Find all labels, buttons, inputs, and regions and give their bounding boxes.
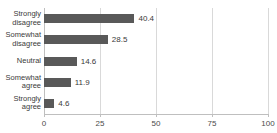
x-tick-mark bbox=[44, 114, 45, 117]
bar-value-label: 28.5 bbox=[112, 35, 128, 44]
gridline bbox=[100, 8, 101, 114]
bar-chart: Strongly disagreeSomewhat disagreeNeutra… bbox=[0, 0, 277, 133]
chart-title-cropped bbox=[26, 0, 206, 2]
x-tick-mark bbox=[212, 114, 213, 117]
bar bbox=[44, 35, 108, 44]
x-tick-mark bbox=[100, 114, 101, 117]
gridline bbox=[268, 8, 269, 114]
bar-value-label: 40.4 bbox=[138, 14, 154, 23]
x-tick-label: 25 bbox=[96, 119, 105, 128]
category-label: Strongly agree bbox=[1, 95, 41, 112]
x-tick-label: 50 bbox=[152, 119, 161, 128]
x-tick-mark bbox=[268, 114, 269, 117]
bar bbox=[44, 99, 54, 108]
bar-value-label: 4.6 bbox=[58, 99, 69, 108]
category-axis-labels: Strongly disagreeSomewhat disagreeNeutra… bbox=[0, 8, 41, 114]
bar-value-label: 14.6 bbox=[81, 57, 97, 66]
x-tick-mark bbox=[156, 114, 157, 117]
x-tick-label: 75 bbox=[208, 119, 217, 128]
x-tick-label: 0 bbox=[42, 119, 46, 128]
bar bbox=[44, 57, 77, 66]
category-label: Somewhat disagree bbox=[1, 31, 41, 48]
plot-area: 40.428.514.611.94.6 bbox=[44, 8, 268, 114]
gridline bbox=[156, 8, 157, 114]
bar bbox=[44, 78, 71, 87]
bar bbox=[44, 14, 134, 23]
category-label: Neutral bbox=[1, 57, 41, 66]
bar-value-label: 11.9 bbox=[75, 78, 90, 87]
gridline bbox=[212, 8, 213, 114]
x-tick-label: 100 bbox=[261, 119, 274, 128]
category-label: Strongly disagree bbox=[1, 10, 41, 27]
category-label: Somewhat agree bbox=[1, 74, 41, 91]
